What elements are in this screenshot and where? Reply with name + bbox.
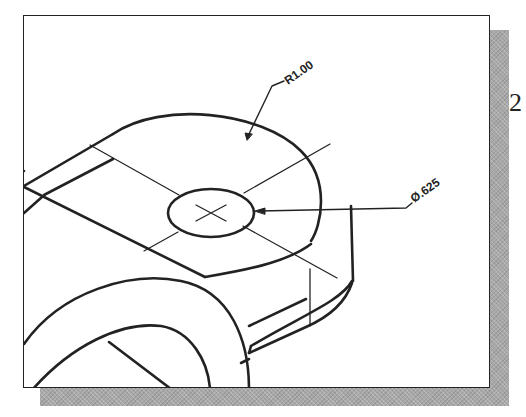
radius-leader xyxy=(249,81,284,134)
drawing-frame: R1.00 Ø.625 xyxy=(23,15,490,388)
top-face-back-edge xyxy=(24,134,113,186)
hole-center-mark xyxy=(196,205,226,221)
centerline-4 xyxy=(144,232,178,251)
front-face-top-edge xyxy=(205,244,311,277)
isometric-drawing: R1.00 Ø.625 xyxy=(24,16,490,388)
side-marker-number: 2 xyxy=(509,88,526,118)
diameter-leader xyxy=(260,203,412,211)
radius-dimension-label: R1.00 xyxy=(282,57,317,87)
cylinder-right-edge xyxy=(351,206,353,281)
centerline-3 xyxy=(244,144,330,193)
outer-cutout-arc xyxy=(24,279,249,388)
rounded-end-arc xyxy=(113,114,321,241)
top-face-edge-2 xyxy=(44,159,113,195)
centerline-1 xyxy=(90,145,179,195)
inner-cutout-arc xyxy=(33,325,210,388)
centerline-2 xyxy=(243,226,337,278)
diameter-dimension-label: Ø.625 xyxy=(408,175,443,205)
cylinder-bottom-arc xyxy=(251,281,352,346)
